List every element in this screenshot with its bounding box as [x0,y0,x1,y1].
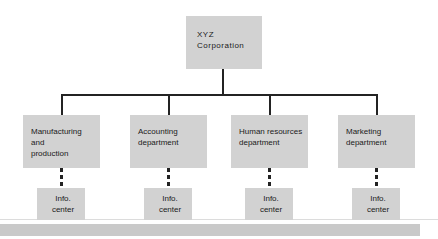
connector-drop-accounting [168,94,170,115]
connector-drop-manufacturing [61,94,63,115]
org-node-manufacturing-label: Manufacturing and production [31,126,82,159]
org-node-root-label: XYZ Corporation [197,29,244,51]
org-node-marketing[interactable]: Marketing department [338,115,415,168]
org-node-info-center-manufacturing-label: Info. center [37,193,85,215]
org-node-info-center-manufacturing[interactable]: Info. center [37,188,85,220]
org-node-info-center-accounting[interactable]: Info. center [144,188,192,220]
org-node-info-center-marketing-label: Info. center [352,193,400,215]
connector-drop-human-resources [269,94,271,115]
connector-drop-marketing [376,94,378,115]
connector-dashed-marketing-info [375,168,378,188]
org-node-root[interactable]: XYZ Corporation [186,16,262,69]
connector-dashed-accounting-info [167,168,170,188]
org-node-marketing-label: Marketing department [346,126,386,148]
org-node-info-center-human-resources-label: Info. center [245,193,293,215]
org-node-manufacturing[interactable]: Manufacturing and production [23,115,100,168]
org-node-accounting-label: Accounting department [138,126,178,148]
org-node-info-center-marketing[interactable]: Info. center [352,188,400,220]
org-node-accounting[interactable]: Accounting department [130,115,207,168]
org-node-human-resources-label: Human resources department [239,126,302,148]
connector-dashed-manufacturing-info [60,168,63,188]
connector-root-stub [222,69,224,96]
connector-dashed-human-resources-info [268,168,271,188]
org-node-info-center-human-resources[interactable]: Info. center [245,188,293,220]
org-node-info-center-accounting-label: Info. center [144,193,192,215]
org-chart-diagram: XYZ Corporation Manufacturing and produc… [0,0,438,239]
page-footer-bar [0,224,420,236]
connector-horizontal-bus [61,94,378,96]
org-node-human-resources[interactable]: Human resources department [231,115,308,168]
